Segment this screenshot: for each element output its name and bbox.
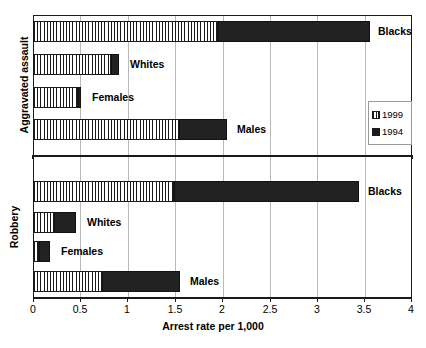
bar-segment-1999 [33, 21, 218, 42]
bar-top-whites [33, 54, 119, 75]
x-tick-0.5 [80, 297, 81, 302]
bar-segment-1999 [33, 212, 54, 233]
bar-segment-1994 [179, 119, 227, 140]
x-axis-label: Arrest rate per 1,000 [0, 320, 426, 332]
x-tick-2.5 [270, 297, 271, 302]
bar-label-top-females: Females [92, 87, 134, 108]
x-tick-label-2.5: 2.5 [263, 303, 278, 315]
x-tick-2 [222, 297, 223, 302]
panel-title-aggravated-assault: Aggravated assault [18, 25, 30, 145]
panel-aggravated-assault: Blacks Whites Females Males [33, 15, 412, 157]
bar-label-bottom-whites: Whites [87, 212, 121, 233]
x-tick-label-1.5: 1.5 [168, 303, 183, 315]
bar-top-blacks [33, 21, 370, 42]
bar-segment-1999 [33, 87, 78, 108]
bar-segment-1994 [54, 212, 76, 233]
bar-bottom-females [33, 241, 50, 262]
x-tick-label-3.5: 3.5 [357, 303, 372, 315]
bar-segment-1999 [33, 119, 179, 140]
bar-label-top-males: Males [237, 119, 266, 140]
x-tick-label-3: 3 [314, 303, 320, 315]
panel-robbery: Blacks Whites Females Males [33, 157, 412, 298]
x-tick-label-4: 4 [408, 303, 414, 315]
bar-top-males [33, 119, 227, 140]
x-tick-0 [33, 297, 34, 302]
bar-segment-1994 [78, 87, 81, 108]
bar-bottom-males [33, 271, 180, 292]
bar-segment-1994 [174, 181, 359, 202]
bar-segment-1994 [39, 241, 50, 262]
bar-segment-1994 [111, 54, 119, 75]
bar-top-females [33, 87, 81, 108]
legend-label-1999: 1999 [382, 109, 403, 120]
gridline-3.5 [365, 157, 366, 297]
x-tick-label-2: 2 [219, 303, 225, 315]
x-tick-label-1: 1 [124, 303, 130, 315]
legend-label-1994: 1994 [382, 126, 403, 137]
panel-title-robbery: Robbery [8, 167, 20, 287]
bar-segment-1999 [33, 181, 174, 202]
x-tick-label-0: 0 [30, 303, 36, 315]
bar-label-top-whites: Whites [130, 54, 164, 75]
legend: 1999 1994 [368, 101, 412, 145]
bar-label-bottom-blacks: Blacks [368, 181, 402, 202]
bar-bottom-whites [33, 212, 76, 233]
gridline-2 [223, 157, 224, 297]
gridline-2.5 [270, 157, 271, 297]
bar-label-bottom-males: Males [190, 271, 219, 292]
x-tick-3 [317, 297, 318, 302]
bar-label-bottom-females: Females [61, 241, 103, 262]
legend-swatch-1994-icon [372, 128, 380, 136]
bar-label-top-blacks: Blacks [378, 21, 412, 42]
x-tick-4 [411, 297, 412, 302]
legend-item-1999: 1999 [372, 106, 411, 123]
bar-segment-1999 [33, 54, 111, 75]
x-tick-3.5 [364, 297, 365, 302]
gridline-3 [317, 157, 318, 297]
bar-bottom-blacks [33, 181, 359, 202]
bar-segment-1999 [33, 271, 102, 292]
arrest-rate-chart: Aggravated assault Robbery Blacks Whites… [0, 0, 426, 348]
bar-segment-1994 [102, 271, 180, 292]
x-tick-label-0.5: 0.5 [73, 303, 88, 315]
x-tick-1.5 [175, 297, 176, 302]
bar-segment-1994 [218, 21, 370, 42]
x-tick-1 [127, 297, 128, 302]
legend-swatch-1999-icon [372, 111, 380, 119]
legend-item-1994: 1994 [372, 123, 411, 140]
